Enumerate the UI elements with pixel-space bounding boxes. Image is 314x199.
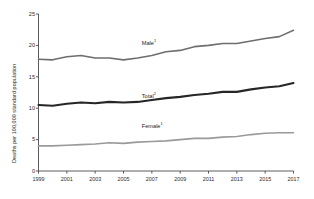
y-axis-tick-label: 0 [14, 168, 35, 174]
x-axis-tick-label: 1999 [26, 176, 52, 182]
x-axis-tick-label: 2011 [196, 176, 222, 182]
chart-plot-area [0, 0, 314, 199]
x-axis-tick-label: 2017 [281, 176, 307, 182]
series-label-female: Female1 [142, 121, 163, 129]
x-axis-tick-label: 2015 [252, 176, 278, 182]
y-axis-tick-label: 15 [14, 74, 35, 80]
series-label-male: Male1 [142, 38, 156, 46]
suicide-rate-line-chart: 0510152025199920012003200520072009201120… [0, 0, 314, 199]
x-axis-tick-label: 2013 [224, 176, 250, 182]
y-axis-tick-label: 5 [14, 136, 35, 142]
x-axis-tick-label: 2009 [167, 176, 193, 182]
y-axis-tick-label: 25 [14, 11, 35, 17]
series-label-total: Total2 [142, 91, 156, 99]
y-axis-tick-label: 10 [14, 105, 35, 111]
x-axis-tick-label: 2007 [139, 176, 165, 182]
x-axis-tick-label: 2005 [111, 176, 137, 182]
y-axis-title: Deaths per 100,000 standard population [11, 64, 17, 163]
x-axis-tick-label: 2003 [82, 176, 108, 182]
y-axis-tick-label: 20 [14, 42, 35, 48]
x-axis-tick-label: 2001 [54, 176, 80, 182]
